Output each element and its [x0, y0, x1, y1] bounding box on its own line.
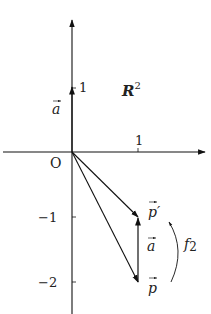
x-tick-label-1: 1: [135, 133, 143, 148]
map-f2-arrow: [169, 222, 178, 282]
vector-p-prime-label: p′: [148, 204, 161, 220]
labels: R2 1 1 −1 −2 O a p′ a p f2: [38, 80, 197, 296]
vector-p-prime: [72, 152, 138, 217]
vector-p-label: p: [148, 280, 157, 296]
vector-a-axis-label: a: [52, 101, 60, 117]
origin-label: O: [50, 155, 61, 171]
map-f2-label: f2: [183, 236, 197, 254]
axes: [3, 20, 205, 314]
y-tick-label-neg1: −1: [38, 210, 57, 225]
y-tick-label-neg2: −2: [38, 275, 57, 290]
vector-p: [72, 152, 138, 282]
vector-translation-diagram: R2 1 1 −1 −2 O a p′ a p f2: [0, 0, 211, 314]
y-tick-label-1: 1: [79, 80, 87, 95]
vector-a-translation-label: a: [147, 238, 155, 254]
space-label: R2: [121, 80, 141, 100]
